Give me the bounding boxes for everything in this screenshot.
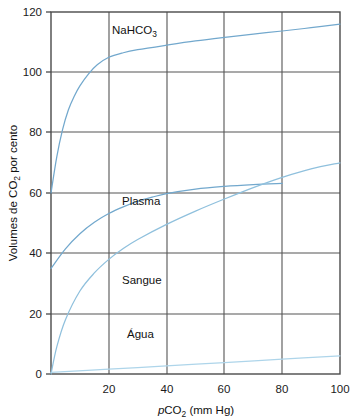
y-axis-title: Volumes de CO2 por cento [7, 125, 22, 261]
chart-figure: 120 100 80 60 40 20 0 20 40 60 80 100 Na… [0, 0, 356, 420]
label-agua: Água [127, 328, 154, 340]
xtick-label-80: 80 [276, 383, 289, 395]
xtick-label-20: 20 [103, 383, 116, 395]
y-axis-title-after: por cento [7, 125, 19, 176]
y-axis-tick-labels: 120 100 80 60 40 20 0 [23, 6, 42, 380]
label-sangue: Sangue [122, 274, 162, 286]
ytick-label-40: 40 [29, 247, 42, 259]
xtick-label-100: 100 [330, 383, 349, 395]
ytick-label-120: 120 [23, 6, 42, 18]
x-axis-title: pCO2 (mm Hg) [157, 404, 234, 419]
ytick-label-60: 60 [29, 187, 42, 199]
x-axis-title-units: (mm Hg) [189, 404, 234, 416]
label-nahco3-main: NaHCO [112, 24, 152, 36]
ytick-label-100: 100 [23, 66, 42, 78]
ytick-label-80: 80 [29, 126, 42, 138]
label-nahco3-subscript: 3 [152, 29, 157, 39]
co2-dissociation-chart: 120 100 80 60 40 20 0 20 40 60 80 100 Na… [0, 0, 356, 420]
y-axis-ticks [46, 12, 51, 374]
xtick-label-60: 60 [218, 383, 231, 395]
ytick-label-20: 20 [29, 308, 42, 320]
ytick-label-0: 0 [36, 368, 42, 380]
label-plasma: Plasma [122, 195, 161, 207]
x-axis-title-main: CO [164, 404, 181, 416]
y-axis-title-before: Volumes de CO [7, 181, 19, 262]
xtick-label-40: 40 [161, 383, 174, 395]
x-axis-tick-labels: 20 40 60 80 100 [103, 383, 350, 395]
